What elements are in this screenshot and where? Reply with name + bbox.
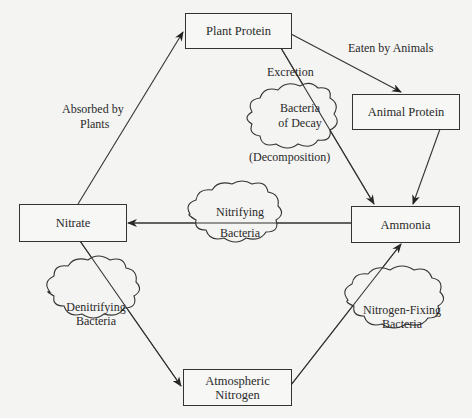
cloud-nitrifying-line1: Nitrifying [210, 205, 270, 219]
cloud-fixing-line1: Nitrogen-Fixing [354, 303, 450, 317]
node-label: Animal Protein [368, 105, 445, 119]
cloud-denitrifying-line2: Bacteria [56, 314, 136, 328]
label-excretion: Excretion [267, 65, 314, 79]
node-plant-protein: Plant Protein [185, 13, 292, 49]
node-atmospheric-nitrogen: Atmospheric Nitrogen [183, 369, 292, 406]
label-eaten-by-animals: Eaten by Animals [348, 41, 433, 55]
node-label: Nitrogen [215, 388, 259, 402]
cloud-fixing-line2: Bacteria [354, 317, 450, 331]
node-ammonia: Ammonia [351, 206, 460, 243]
node-label: Nitrate [56, 216, 91, 230]
arrow-animal-to-ammonia [413, 129, 440, 204]
cloud-decay-line2: of Decay [270, 116, 330, 130]
cloud-nitrifying-line2: Bacteria [210, 226, 270, 240]
cloud-denitrifying-line1: Denitrifying [56, 300, 136, 314]
node-nitrate: Nitrate [19, 204, 127, 242]
label-absorbed-line2: Plants [80, 117, 109, 131]
node-animal-protein: Animal Protein [352, 94, 460, 130]
node-label: Atmospheric [205, 374, 270, 388]
node-label: Plant Protein [206, 24, 271, 38]
label-decomposition: (Decomposition) [249, 150, 330, 164]
label-absorbed-line1: Absorbed by [62, 102, 124, 116]
node-label: Ammonia [381, 218, 431, 232]
cloud-decay-line1: Bacteria [270, 101, 330, 115]
